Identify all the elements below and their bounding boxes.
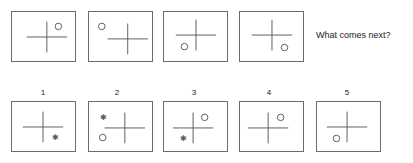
panel-figure bbox=[240, 102, 303, 151]
asterisk-icon: ✱ bbox=[180, 134, 187, 143]
option-panel-4[interactable] bbox=[239, 101, 304, 152]
option-panel-1[interactable]: ✱ bbox=[11, 101, 76, 152]
option-label-1: 1 bbox=[33, 88, 53, 98]
panel-figure bbox=[240, 12, 303, 61]
circle-icon bbox=[333, 135, 340, 142]
option-panel-3[interactable]: ✱ bbox=[163, 101, 228, 152]
panel-figure bbox=[164, 12, 227, 61]
option-label-4: 4 bbox=[259, 88, 279, 98]
circle-icon bbox=[281, 44, 288, 51]
panel-figure: ✱ bbox=[12, 102, 75, 151]
panel-figure: ✱ bbox=[164, 102, 227, 151]
panel-figure bbox=[317, 102, 380, 151]
circle-icon bbox=[55, 23, 62, 30]
panel-figure bbox=[89, 12, 152, 61]
sequence-panel-4 bbox=[239, 11, 304, 62]
option-panel-2[interactable]: ✱ bbox=[88, 101, 153, 152]
sequence-panel-3 bbox=[163, 11, 228, 62]
panel-figure bbox=[12, 12, 75, 61]
circle-icon bbox=[99, 134, 106, 141]
circle-icon bbox=[181, 43, 188, 50]
prompt-question: What comes next? bbox=[316, 29, 391, 41]
sequence-panel-2 bbox=[88, 11, 153, 62]
option-label-2: 2 bbox=[107, 88, 127, 98]
reasoning-puzzle: ✱1✱2✱345What comes next? bbox=[0, 0, 413, 163]
option-panel-5[interactable] bbox=[316, 101, 381, 152]
panel-figure: ✱ bbox=[89, 102, 152, 151]
circle-icon bbox=[277, 114, 284, 121]
option-label-5: 5 bbox=[337, 88, 357, 98]
asterisk-icon: ✱ bbox=[100, 113, 107, 122]
option-label-3: 3 bbox=[184, 88, 204, 98]
circle-icon bbox=[98, 23, 105, 30]
sequence-panel-1 bbox=[11, 11, 76, 62]
asterisk-icon: ✱ bbox=[52, 133, 59, 142]
circle-icon bbox=[201, 114, 208, 121]
